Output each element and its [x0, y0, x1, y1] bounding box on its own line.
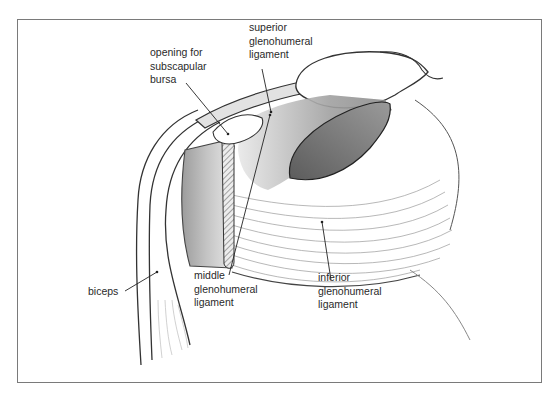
capsule-fibers — [232, 180, 452, 282]
label-middle-glenohumeral-ligament: middle glenohumeral ligament — [194, 269, 258, 310]
cut-surface — [222, 139, 234, 268]
label-inferior-glenohumeral-ligament: inferior glenohumeral ligament — [318, 271, 382, 312]
label-superior-glenohumeral-ligament: superior glenohumeral ligament — [249, 21, 313, 62]
capsule-right-edge — [415, 100, 459, 230]
label-biceps: biceps — [88, 285, 118, 299]
inferior-ligament-curve — [410, 270, 470, 340]
biceps-fibers — [158, 300, 188, 358]
label-opening-subscapular-bursa: opening for subscapular bursa — [150, 46, 207, 87]
